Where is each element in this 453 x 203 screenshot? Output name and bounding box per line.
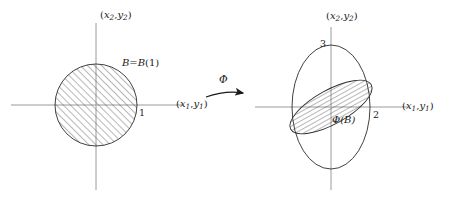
sub-1b: 1 (199, 102, 204, 111)
right-tick-label-3: 3 (320, 39, 326, 49)
var-x: x (406, 100, 412, 111)
math-figure: (x2,y2) (x1,y1) B=B(1) 1 Φ (x2,y2) (x1,y… (0, 0, 453, 203)
label-arg: (1) (145, 57, 159, 68)
right-tick-label-2: 2 (373, 110, 379, 120)
image-set-label: Φ(B) (332, 115, 355, 125)
label-eq: = (129, 57, 137, 68)
sub-2b: 2 (349, 14, 354, 23)
left-tick-label-1: 1 (139, 108, 145, 118)
sub-2: 2 (336, 14, 341, 23)
right-panel-group (255, 27, 408, 190)
right-vertical-axis-label: (x2,y2) (326, 11, 358, 21)
var-x: x (180, 98, 186, 109)
left-panel-group (11, 23, 183, 190)
paren-close: ) (354, 10, 358, 21)
right-horizontal-axis-label: (x1,y1) (402, 101, 434, 111)
figure-canvas (0, 0, 453, 203)
sub-1b: 1 (425, 104, 430, 113)
phi-arrow-group (206, 92, 243, 97)
label-bb: B (138, 57, 145, 68)
paren-close: ) (430, 100, 434, 111)
sub-2: 2 (110, 13, 115, 22)
var-x: x (330, 10, 336, 21)
unit-disc-label: B=B(1) (122, 58, 159, 68)
phi-arrow-path (206, 92, 243, 97)
phi-arrow-label: Φ (219, 74, 228, 85)
sub-2b: 2 (123, 13, 128, 22)
left-horizontal-axis-label: (x1,y1) (176, 99, 208, 109)
sub-1: 1 (186, 102, 191, 111)
var-x: x (104, 9, 110, 20)
paren-close: ) (128, 9, 132, 20)
paren-close: ) (204, 98, 208, 109)
left-vertical-axis-label: (x2,y2) (100, 10, 132, 20)
sub-1: 1 (412, 104, 417, 113)
